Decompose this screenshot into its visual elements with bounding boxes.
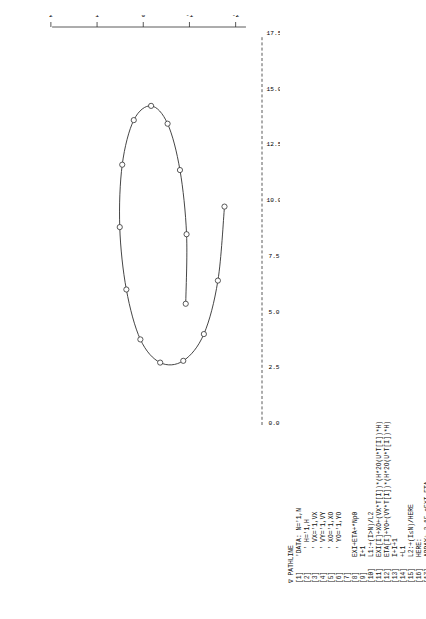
curve-path (120, 106, 225, 365)
listing-line: [2] ' H='1,H (304, 421, 312, 583)
x-axis-tick-label: -1 (186, 15, 194, 19)
listing-line-number: [4] (320, 557, 328, 583)
y-axis-tick-label: 12.5 (267, 141, 280, 148)
y-axis-tick-label: 15.0 (267, 86, 280, 93)
pathline-plot: 0.02.55.07.510.012.515.017.5 -28.7703-1.… (18, 15, 280, 575)
curve-data-point (184, 232, 189, 237)
curve-data-point (138, 337, 143, 342)
listing-line-number: [11] (376, 557, 384, 583)
listing-line: [15]L2:+(I≤N)/HERE (408, 421, 416, 583)
listing-line: [10]L1:+(I>N)/L2 (368, 421, 376, 583)
listing-line-code: 'DATA: N='1,N (296, 508, 304, 557)
listing-line: [13]I+I+1 (392, 421, 400, 583)
code-listing: ∇ PATHLINE [1]'DATA: N='1,N[2] ' H='1,H[… (288, 421, 426, 583)
listing-line-code: ETA[I]+YO+(VY*T[I])*(H*2O(U*T[I])*H) (384, 421, 392, 557)
curve-data-point (177, 167, 182, 172)
y-axis-tick-label: 0.0 (268, 420, 279, 427)
listing-line-number: [15] (408, 557, 416, 583)
curve-data-point (181, 358, 186, 363)
listing-line: [3] ' VX='1,VX (312, 421, 320, 583)
curve-data-point (222, 204, 227, 209)
listing-line-number: [3] (312, 557, 320, 583)
listing-line: [6] ' YO='1,YO (336, 421, 344, 583)
listing-line-code: I+I+1 (392, 538, 400, 557)
rotated-content: ∇ PATHLINE [1]'DATA: N='1,N[2] ' H='1,H[… (0, 0, 426, 619)
listing-line-code: ' H='1,H (304, 519, 312, 557)
listing-line: [11]EXI[I]+XO+(VX*T[I])*(H*2O(U*T[I])*H) (376, 421, 384, 583)
listing-line-number: [7] (344, 557, 352, 583)
listing-line-code: EXI[I]+XO+(VX*T[I])*(H*2O(U*T[I])*H) (376, 421, 384, 557)
listing-rows: [1]'DATA: N='1,N[2] ' H='1,H[3] ' VX='1,… (296, 421, 426, 583)
pathline-curve (117, 103, 227, 365)
listing-line: [14]+L1 (400, 421, 408, 583)
listing-line-code: HERE: (416, 538, 424, 557)
listing-line: [16]HERE: (416, 421, 424, 583)
listing-line: [12]ETA[I]+YO+(VY*T[I])*(H*2O(U*T[I])*H) (384, 421, 392, 583)
curve-data-point (201, 331, 206, 336)
x-axis-tick-label: 2 (49, 15, 53, 19)
y-axis-tick-label: 17.5 (267, 30, 280, 37)
page-canvas: ∇ PATHLINE [1]'DATA: N='1,N[2] ' H='1,H[… (0, 0, 426, 619)
listing-line: [4] ' VY='1,VY (320, 421, 328, 583)
curve-data-point (148, 103, 153, 108)
curve-data-point (117, 225, 122, 230)
y-axis: 0.02.55.07.510.012.515.017.5 (262, 30, 280, 427)
listing-line-code: ' VY='1,VY (320, 512, 328, 557)
x-axis-tick-label: 1 (95, 15, 99, 19)
curve-data-point (215, 278, 220, 283)
listing-line: [9]I+1 (360, 421, 368, 583)
y-axis-tick-label: 7.5 (268, 253, 279, 260)
listing-line-code: ' XO='1,XO (328, 512, 336, 557)
y-axis-tick-label: 2.5 (268, 364, 279, 371)
y-axis-tick-label: 5.0 (268, 309, 279, 316)
curve-data-point (124, 287, 129, 292)
listing-line: [1]'DATA: N='1,N (296, 421, 304, 583)
y-axis-tick-label: 10.0 (267, 197, 280, 204)
curve-data-point (165, 121, 170, 126)
listing-line-code: +L1 (400, 546, 408, 557)
listing-line: [5] ' XO='1,XO (328, 421, 336, 583)
listing-line-number: [13] (392, 557, 400, 583)
listing-line-code: EXI+ETA+*Nρ0 (352, 512, 360, 557)
listing-line-code: ' VX='1,VX (312, 512, 320, 557)
listing-line-number: [8] (352, 557, 360, 583)
listing-line-number: [6] (336, 557, 344, 583)
listing-line-number: [9] (360, 557, 368, 583)
listing-line-number: [14] (400, 557, 408, 583)
listing-line-number: [12] (384, 557, 392, 583)
listing-line-number: [5] (328, 557, 336, 583)
listing-line-number: [10] (368, 557, 376, 583)
curve-data-point (120, 162, 125, 167)
x-axis-tick-label: 0 (141, 15, 145, 19)
listing-line-code: I+1 (360, 546, 368, 557)
listing-line-code: ' YO='1,YO (336, 512, 344, 557)
listing-line-number: [2] (304, 557, 312, 583)
listing-line: [8]EXI+ETA+*Nρ0 (352, 421, 360, 583)
curve-data-point (158, 360, 163, 365)
listing-line-number: [1] (296, 557, 304, 583)
listing-header: ∇ PATHLINE (288, 421, 296, 583)
curve-data-point (183, 301, 188, 306)
listing-line-code: L2:+(I≤N)/HERE (408, 504, 416, 557)
listing-line-number: [16] (416, 557, 424, 583)
x-axis: -28.7703-1.7653-110.500.0040367110.7651.… (42, 15, 249, 27)
listing-line: [7] (344, 421, 352, 583)
listing-line-code: L1:+(I>N)/L2 (368, 512, 376, 557)
curve-data-point (131, 118, 136, 123)
x-axis-tick-label: -2 (232, 15, 240, 19)
